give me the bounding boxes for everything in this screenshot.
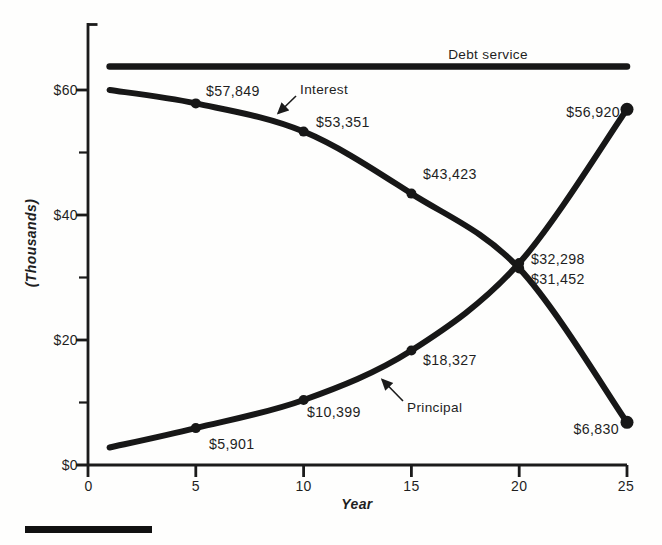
bottom-rule-bar bbox=[25, 526, 152, 533]
interest-value-year10: $53,351 bbox=[316, 114, 370, 130]
principal-value-year25: $56,920 bbox=[566, 104, 620, 120]
interest-value-year25: $6,830 bbox=[574, 421, 620, 437]
principal-arrow bbox=[382, 380, 403, 402]
principal-value-year10: $10,399 bbox=[307, 404, 361, 420]
principal-points bbox=[191, 103, 634, 433]
principal-point-year-20 bbox=[514, 258, 524, 268]
x-tick-label-0: 0 bbox=[84, 478, 92, 494]
interest-value-year15: $43,423 bbox=[423, 166, 477, 182]
chart-canvas: $0 $20 $40 $60 0 5 10 15 20 25 (Thousand… bbox=[0, 0, 662, 545]
y-tick-label-0: $0 bbox=[62, 457, 78, 473]
amortization-chart-figure: $0 $20 $40 $60 0 5 10 15 20 25 (Thousand… bbox=[0, 0, 662, 545]
principal-point-year-5 bbox=[191, 423, 201, 433]
interest-point-year-10 bbox=[299, 127, 309, 137]
principal-value-year20: $32,298 bbox=[531, 251, 585, 267]
y-tick-label-20: $20 bbox=[54, 332, 78, 348]
interest-point-year-15 bbox=[406, 189, 416, 199]
x-tick-label-20: 20 bbox=[511, 478, 527, 494]
interest-value-year5: $57,849 bbox=[206, 83, 260, 99]
principal-point-year-25 bbox=[621, 103, 634, 116]
interest-label: Interest bbox=[300, 82, 348, 97]
x-tick-label-5: 5 bbox=[192, 478, 200, 494]
y-axis-title: (Thousands) bbox=[23, 199, 39, 287]
x-tick-label-15: 15 bbox=[403, 478, 419, 494]
x-axis-title: Year bbox=[341, 496, 374, 512]
debt-service-label: Debt service bbox=[448, 47, 528, 62]
principal-value-year15: $18,327 bbox=[423, 352, 477, 368]
principal-point-year-15 bbox=[406, 346, 416, 356]
principal-value-year5: $5,901 bbox=[209, 436, 255, 452]
interest-point-year-25 bbox=[621, 416, 634, 429]
interest-value-year20: $31,452 bbox=[531, 271, 585, 287]
x-tick-label-25: 25 bbox=[618, 478, 634, 494]
y-tick-label-40: $40 bbox=[54, 207, 78, 223]
y-tick-label-60: $60 bbox=[54, 82, 78, 98]
interest-point-year-5 bbox=[191, 98, 201, 108]
x-tick-label-10: 10 bbox=[295, 478, 311, 494]
principal-label: Principal bbox=[407, 400, 462, 415]
interest-arrow bbox=[278, 96, 296, 114]
